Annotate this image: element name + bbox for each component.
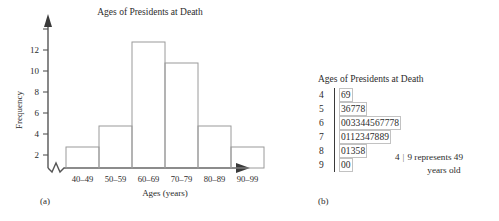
figure-root: Ages of Presidents at Death 2 4 6 8 (0, 0, 499, 221)
histogram-svg: 2 4 6 8 10 12 Frequency 40 (0, 0, 300, 221)
y-tick-label-2: 2 (35, 150, 40, 160)
stemplot-row: 8 01358 (318, 144, 401, 158)
x-tick-label-50-59: 50–59 (105, 174, 126, 184)
stem-value: 9 (318, 158, 334, 172)
stem-divider (334, 116, 335, 130)
stem-divider (334, 88, 335, 102)
stemplot-title: Ages of Presidents at Death (318, 74, 424, 84)
bar-40-49 (66, 147, 99, 168)
stemplot-row: 4 69 (318, 88, 401, 102)
y-axis (44, 14, 52, 168)
stem-divider (334, 130, 335, 144)
y-tick-label-12: 12 (30, 45, 39, 55)
bar-70-79 (165, 63, 198, 168)
stemplot-table: 4 69 5 36778 6 003344567778 7 0112347889 (318, 88, 401, 172)
legend-text: 9 represents 49 (407, 152, 463, 162)
histogram-panel: Ages of Presidents at Death 2 4 6 8 (0, 0, 300, 221)
panel-b-caption: (b) (318, 196, 329, 206)
x-axis-title: Ages (years) (142, 188, 188, 198)
y-tick-label-4: 4 (35, 129, 40, 139)
stem-value: 8 (318, 144, 334, 158)
x-tick-label-70-79: 70–79 (171, 174, 192, 184)
stem-divider (334, 158, 335, 172)
stem-value: 6 (318, 116, 334, 130)
bar-50-59 (99, 126, 132, 168)
stem-value: 7 (318, 130, 334, 144)
x-tick-label-80-89: 80–89 (204, 174, 225, 184)
stemplot-row: 9 00 (318, 158, 401, 172)
stemplot-row: 6 003344567778 (318, 116, 401, 130)
y-axis-title: Frequency (14, 91, 24, 129)
y-axis-ticks (43, 29, 48, 155)
panel-a-caption: (a) (40, 196, 50, 206)
y-tick-label-10: 10 (30, 66, 40, 76)
bar-80-89 (198, 126, 231, 168)
x-tick-label-60-69: 60–69 (138, 174, 159, 184)
legend-text-line2: years old (395, 164, 499, 177)
stem-value: 5 (318, 102, 334, 116)
leaf-values: 36778 (339, 102, 367, 116)
y-tick-label-8: 8 (35, 87, 40, 97)
leaf-values: 0112347889 (339, 130, 391, 144)
histogram-bars (66, 42, 264, 168)
y-tick-label-6: 6 (35, 108, 40, 118)
leaf-values: 00 (339, 158, 353, 172)
stem-divider (334, 144, 335, 158)
y-axis-arrow-icon (44, 14, 52, 27)
bar-90-99 (231, 147, 264, 168)
stemplot-row: 7 0112347889 (318, 130, 401, 144)
leaf-values: 003344567778 (339, 116, 401, 130)
stem-divider (334, 102, 335, 116)
stemplot-row: 5 36778 (318, 102, 401, 116)
bar-60-69 (132, 42, 165, 168)
stemplot-panel: Ages of Presidents at Death 4 69 5 36778… (300, 0, 499, 221)
stemplot-legend: 4|9 represents 49 years old (395, 151, 499, 177)
stem-value: 4 (318, 88, 334, 102)
leaf-values: 69 (339, 88, 353, 102)
x-tick-label-90-99: 90–99 (237, 174, 258, 184)
x-tick-label-40-49: 40–49 (72, 174, 93, 184)
leaf-values: 01358 (339, 144, 367, 158)
